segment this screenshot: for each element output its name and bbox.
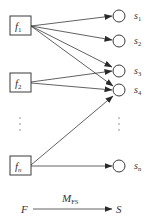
edge-fn-s4 [31,96,113,165]
state-label-s2: s2 [134,35,141,47]
state-label-s1: s1 [134,10,141,22]
right-ellipsis-icon [118,117,120,131]
feature-fn: fn [10,156,31,175]
feature-f2: f2 [10,73,31,92]
state-label-s4: s4 [134,84,142,96]
edge-f1-s4 [31,26,113,86]
state-nodes [113,10,125,172]
state-label-sn: sn [134,160,142,172]
edge-f1-s1 [31,16,112,26]
state-label-s3: s3 [134,65,141,77]
mapping-to-label: S [116,203,122,215]
mapping-legend: F S MFS [20,192,122,215]
state-node-sn [113,160,125,172]
left-ellipsis-icon [19,117,21,131]
edge-f2-s4 [31,83,112,90]
edges [31,16,113,166]
edge-f1-s3 [31,26,112,67]
state-node-s3 [113,65,125,77]
feature-state-diagram: f1 f2 fn s1 s2 s3 s4 sn F S MFS [0,0,152,221]
feature-f1: f1 [10,16,31,35]
edge-f1-s2 [31,26,112,40]
state-node-s4 [113,84,125,96]
mapping-arrow-label: MFS [61,192,79,205]
state-node-s1 [113,10,125,22]
mapping-from-label: F [20,203,28,215]
state-node-s2 [113,35,125,47]
